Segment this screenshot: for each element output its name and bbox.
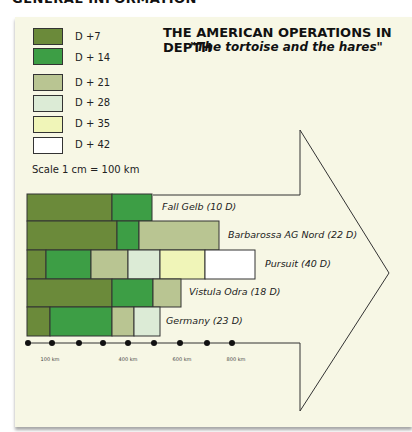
axis-tick-label: 800 km [227,356,246,362]
bar-segment [46,250,91,279]
legend-label-d21: D + 21 [75,77,110,88]
bar-label: Vistula Odra (18 D) [189,286,280,297]
bar-segment [112,194,152,221]
axis-tick-label: 600 km [173,356,192,362]
axis-tick-dot [151,340,157,346]
bar-segment [112,279,153,307]
bar-segment [205,250,255,279]
bar-segment [160,250,205,279]
legend-swatch-d7 [33,28,63,45]
bar-segment [91,250,128,279]
bar-segment [27,279,112,307]
axis-tick-dot [100,340,106,346]
bar-segment [27,307,50,336]
axis-tick-dot [76,340,82,346]
legend-label-d7: D +7 [75,31,101,42]
bar-label: Fall Gelb (10 D) [162,201,236,212]
bar-segment [27,250,46,279]
legend-swatch-d28 [33,95,63,112]
bar-segment [153,279,181,307]
legend-label-d35: D + 35 [75,118,110,129]
scale-note: Scale 1 cm = 100 km [32,164,139,175]
axis-tick-dot [49,340,55,346]
bar-segment [134,307,160,336]
bar-segment [27,221,117,250]
bar-segment [27,194,112,221]
chart-subtitle: "The tortoise and the hares" [190,40,383,54]
legend-swatch-d14 [33,48,63,65]
axis-tick-dot [125,340,131,346]
axis-tick-label: 400 km [119,356,138,362]
legend-swatch-d42 [33,137,63,154]
legend-label-d28: D + 28 [75,97,110,108]
bar-label: Pursuit (40 D) [265,258,331,269]
bar-segment [139,221,219,250]
bar-segment [50,307,112,336]
axis-tick-dot [25,340,31,346]
legend-label-d42: D + 42 [75,139,110,150]
axis-tick-dot [204,340,210,346]
axis-tick-label: 100 km [41,356,60,362]
bar-segment [128,250,160,279]
axis-tick-dot [177,340,183,346]
bar-label: Barbarossa AG Nord (22 D) [228,229,357,240]
bar-segment [112,307,134,336]
legend-label-d14: D + 14 [75,52,110,63]
legend-swatch-d21 [33,74,63,91]
axis-tick-dot [229,340,235,346]
legend-swatch-d35 [33,116,63,133]
bar-segment [117,221,139,250]
bar-label: Germany (23 D) [166,315,243,326]
